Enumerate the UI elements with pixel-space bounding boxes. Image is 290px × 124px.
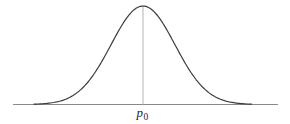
p0-label-subscript: 0 <box>143 112 148 122</box>
p0-label-base: p <box>136 105 143 120</box>
p0-label: p0 <box>136 105 147 122</box>
normal-curve-figure: p0 <box>0 0 290 124</box>
